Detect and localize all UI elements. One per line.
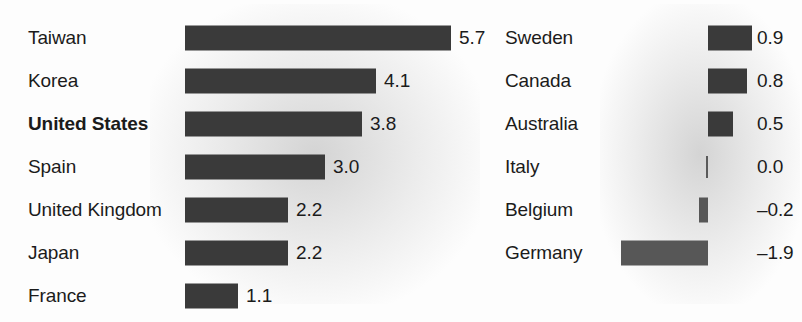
zero-baseline-tick — [706, 156, 708, 178]
category-label: Japan — [28, 242, 79, 264]
bar — [185, 197, 288, 222]
category-label: Korea — [28, 70, 78, 92]
bar — [185, 111, 362, 136]
chart-figure: Taiwan 5.7 Korea 4.1 United States 3.8 S… — [0, 0, 802, 322]
category-label: United Kingdom — [28, 199, 162, 221]
bar-row: Italy 0.0 — [490, 145, 802, 188]
bar — [185, 25, 451, 50]
category-label: France — [28, 285, 87, 307]
value-label: –0.2 — [757, 199, 794, 221]
bar-row: United States 3.8 — [0, 102, 490, 145]
bar-row: Japan 2.2 — [0, 231, 490, 274]
bar-row: France 1.1 — [0, 274, 490, 317]
value-label: 2.2 — [296, 199, 322, 221]
bar — [185, 154, 325, 179]
bar-row: Canada 0.8 — [490, 59, 802, 102]
right-panel: Sweden 0.9 Canada 0.8 Australia 0.5 Ital… — [490, 0, 802, 322]
value-label: 0.0 — [757, 156, 783, 178]
bar-row: Belgium –0.2 — [490, 188, 802, 231]
bar-row: United Kingdom 2.2 — [0, 188, 490, 231]
category-label: United States — [28, 113, 148, 135]
category-label: Australia — [505, 113, 578, 135]
left-panel: Taiwan 5.7 Korea 4.1 United States 3.8 S… — [0, 0, 490, 322]
bar — [708, 25, 752, 50]
value-label: 5.7 — [459, 27, 485, 49]
bar — [708, 111, 733, 136]
category-label: Belgium — [505, 199, 573, 221]
bar-row: Sweden 0.9 — [490, 16, 802, 59]
value-label: 0.9 — [757, 27, 783, 49]
bar — [185, 283, 238, 308]
value-label: 3.8 — [370, 113, 396, 135]
bar-row: Taiwan 5.7 — [0, 16, 490, 59]
category-label: Italy — [505, 156, 539, 178]
bar-row: Spain 3.0 — [0, 145, 490, 188]
bar — [699, 197, 708, 222]
category-label: Taiwan — [28, 27, 87, 49]
bar — [185, 68, 376, 93]
bar-row: Korea 4.1 — [0, 59, 490, 102]
bar — [621, 240, 708, 265]
value-label: 1.1 — [246, 285, 272, 307]
value-label: 4.1 — [384, 70, 410, 92]
category-label: Germany — [505, 242, 582, 264]
category-label: Sweden — [505, 27, 573, 49]
category-label: Spain — [28, 156, 76, 178]
value-label: 3.0 — [333, 156, 359, 178]
bar — [185, 240, 288, 265]
value-label: 0.8 — [757, 70, 783, 92]
category-label: Canada — [505, 70, 571, 92]
value-label: 2.2 — [296, 242, 322, 264]
bar-row: Germany –1.9 — [490, 231, 802, 274]
bar — [708, 68, 747, 93]
value-label: –1.9 — [757, 242, 794, 264]
value-label: 0.5 — [757, 113, 783, 135]
bar-row: Australia 0.5 — [490, 102, 802, 145]
